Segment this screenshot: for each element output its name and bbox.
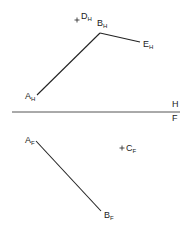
cross-marker-icon xyxy=(75,18,80,23)
projection-diagram: H F AHBHEHDHAFBFCF xyxy=(0,0,188,232)
segment-A_F-B_F xyxy=(36,141,101,211)
point-label-b_h: BH xyxy=(97,18,107,29)
point-label-d_h: DH xyxy=(81,11,92,22)
point-markers xyxy=(75,18,125,151)
cross-marker-icon xyxy=(120,146,125,151)
point-label-a_h: AH xyxy=(25,91,35,102)
point-label-e_h: EH xyxy=(143,39,153,50)
point-label-b_f: BF xyxy=(104,210,114,221)
segment-B_H-E_H xyxy=(100,33,140,42)
point-label-a_f: AF xyxy=(25,135,35,146)
point-labels: AHBHEHDHAFBFCF xyxy=(25,11,153,221)
line-segments xyxy=(36,33,140,211)
segment-A_H-B_H xyxy=(37,33,100,95)
fold-label-f: F xyxy=(172,113,178,123)
fold-label-h: H xyxy=(172,99,179,109)
point-label-c_f: CF xyxy=(126,143,137,154)
